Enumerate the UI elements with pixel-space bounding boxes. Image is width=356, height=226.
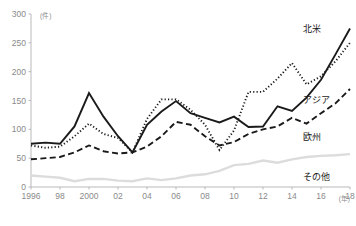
series-label-その他: その他 — [303, 171, 330, 182]
x-tick-label: 04 — [142, 191, 152, 201]
x-tick-label: 02 — [113, 191, 123, 201]
x-tick-label: 1996 — [22, 191, 41, 201]
y-axis-tick-labels: 050100150200250300 — [12, 9, 26, 192]
y-tick-label: 100 — [12, 124, 26, 134]
x-tick-label: 08 — [200, 191, 210, 201]
x-axis-unit-label: (年) — [339, 194, 350, 203]
x-tick-label: 12 — [258, 191, 268, 201]
y-tick-label: 250 — [12, 38, 26, 48]
y-tick-label: 150 — [12, 96, 26, 106]
series-label-アジア: アジア — [303, 95, 330, 105]
x-axis-tick-labels: 1996982000020406081012141618 — [22, 191, 355, 201]
y-tick-label: 200 — [12, 67, 26, 77]
y-tick-label: 300 — [12, 9, 26, 19]
x-tick-label: 14 — [287, 191, 297, 201]
x-tick-label: 2000 — [80, 191, 99, 201]
x-tick-label: 98 — [55, 191, 65, 201]
series-label-北米: 北米 — [303, 23, 321, 34]
y-axis-unit-label: (件) — [40, 11, 51, 20]
x-tick-label: 16 — [316, 191, 326, 201]
y-tick-label: 50 — [17, 153, 27, 163]
x-tick-label: 06 — [171, 191, 181, 201]
line-chart: 050100150200250300 199698200002040608101… — [0, 0, 356, 226]
chart-svg: 050100150200250300 199698200002040608101… — [0, 0, 356, 226]
series-label-欧州: 欧州 — [303, 131, 321, 142]
x-tick-label: 10 — [229, 191, 239, 201]
